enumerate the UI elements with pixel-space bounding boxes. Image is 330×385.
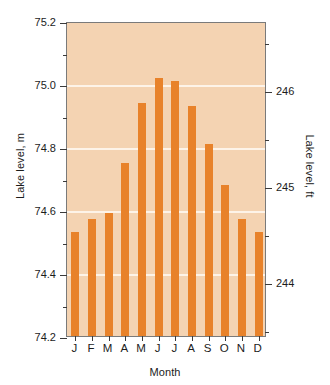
y-tick-left <box>60 86 67 87</box>
y-tick-left <box>60 149 67 150</box>
y-axis-label-left: Lake level, m <box>14 106 26 226</box>
bar <box>138 103 146 336</box>
y-ticklabel-left: 74.8 <box>35 142 56 154</box>
bar-series <box>67 23 265 336</box>
x-ticklabel: M <box>133 342 149 354</box>
x-tick <box>225 336 226 341</box>
bar <box>188 106 196 336</box>
x-ticklabel: F <box>83 342 99 354</box>
x-ticklabel: A <box>116 342 132 354</box>
bar <box>105 213 113 336</box>
y-tick-left <box>60 275 67 276</box>
x-tick <box>242 336 243 341</box>
y-minor-tick-right <box>265 140 269 141</box>
y-tick-left <box>60 338 67 339</box>
y-ticklabel-right: 244 <box>276 277 294 289</box>
bar <box>255 232 263 336</box>
y-tick-right <box>265 284 272 285</box>
bar <box>205 144 213 336</box>
x-ticklabel: J <box>166 342 182 354</box>
x-tick <box>92 336 93 341</box>
x-tick <box>192 336 193 341</box>
y-ticklabel-left: 74.6 <box>35 205 56 217</box>
plot-area: 75.275.074.874.674.474.2 246245244 <box>66 22 266 337</box>
y-ticklabel-right: 245 <box>276 181 294 193</box>
x-tick <box>209 336 210 341</box>
y-ticklabel-left: 74.2 <box>35 331 56 343</box>
y-ticklabel-left: 74.4 <box>35 268 56 280</box>
y-tick-right <box>265 92 272 93</box>
x-tick <box>159 336 160 341</box>
y-ticklabel-left: 75.0 <box>35 79 56 91</box>
x-ticklabel: J <box>66 342 82 354</box>
bar <box>121 163 129 336</box>
y-ticklabel-left: 75.2 <box>35 16 56 28</box>
x-ticklabel: D <box>250 342 266 354</box>
x-tick <box>259 336 260 341</box>
y-tick-right <box>265 188 272 189</box>
x-tick <box>75 336 76 341</box>
x-tick <box>142 336 143 341</box>
x-ticklabel: A <box>183 342 199 354</box>
x-ticklabel: O <box>216 342 232 354</box>
bar <box>88 219 96 336</box>
x-ticklabel: N <box>233 342 249 354</box>
x-tick <box>175 336 176 341</box>
y-ticklabel-right: 246 <box>276 85 294 97</box>
x-ticklabel: S <box>200 342 216 354</box>
y-minor-tick-right <box>265 44 269 45</box>
x-ticklabel: J <box>150 342 166 354</box>
x-axis-label: Month <box>60 366 270 378</box>
y-tick-left <box>60 212 67 213</box>
bar <box>155 78 163 336</box>
bar <box>238 219 246 336</box>
x-tick <box>125 336 126 341</box>
lake-level-bar-chart: Lake level, m Lake level, ft Month 75.27… <box>0 0 330 385</box>
y-minor-tick-right <box>265 332 269 333</box>
bar <box>221 185 229 336</box>
y-axis-label-right: Lake level, ft <box>304 106 316 226</box>
bar <box>71 232 79 336</box>
x-tick <box>109 336 110 341</box>
y-minor-tick-right <box>265 236 269 237</box>
x-ticklabel: M <box>100 342 116 354</box>
y-tick-left <box>60 23 67 24</box>
bar <box>171 81 179 336</box>
